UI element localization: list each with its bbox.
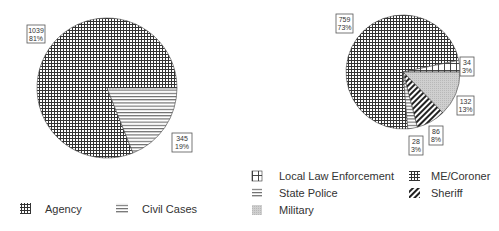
left-pie [37,18,177,158]
svg-text:345: 345 [176,135,188,142]
legend-item-state-police: State Police [252,187,338,199]
svg-text:86: 86 [432,128,440,135]
svg-text:Military: Military [279,204,314,216]
svg-text:Local Law Enforcement: Local Law Enforcement [279,170,394,182]
svg-text:1039: 1039 [28,27,44,34]
legend-item-agency: Agency [20,203,82,215]
diagonal-stripes-swatch-icon [409,188,420,198]
svg-text:3%: 3% [462,67,472,74]
legend-item-me-coroner: ME/Coroner [409,170,491,182]
left-pie-label-civil-cases: 345 19% [172,133,192,152]
horizontal-lines-swatch-icon [116,203,128,214]
legend-item-sheriff: Sheriff [409,187,464,199]
svg-text:13%: 13% [458,106,472,113]
right-pie-label-state-police: 28 3% [409,136,423,155]
right-pie-label-military: 132 13% [457,96,474,115]
right-pie [346,15,460,129]
svg-text:759: 759 [339,16,351,23]
svg-text:3%: 3% [411,146,421,153]
right-pie-label-sheriff: 86 8% [429,126,443,145]
svg-text:Agency: Agency [45,203,82,215]
left-pie-label-agency: 1039 81% [27,25,45,43]
legend-item-local-law-enforcement: Local Law Enforcement [252,170,394,182]
right-legend: Local Law Enforcement State Police Milit… [252,170,491,216]
svg-text:8%: 8% [431,136,441,143]
legend-item-military: Military [252,204,314,216]
dense-grid-swatch-icon [409,171,420,181]
svg-text:ME/Coroner: ME/Coroner [431,170,491,182]
svg-text:81%: 81% [29,35,43,42]
svg-text:73%: 73% [337,24,351,31]
svg-text:Sheriff: Sheriff [431,187,464,199]
gray-stipple-swatch-icon [252,205,262,215]
dense-grid-swatch-icon [20,203,31,214]
chart-canvas: 1039 81% 345 19% 759 73% 34 3% 132 13% 8… [0,0,499,231]
svg-text:State Police: State Police [279,187,338,199]
right-pie-label-local-law-enforcement: 34 3% [460,57,474,76]
right-pie-label-me-coroner: 759 73% [336,14,353,33]
left-legend: Agency Civil Cases [20,203,198,215]
svg-text:Civil Cases: Civil Cases [142,203,198,215]
svg-text:19%: 19% [175,143,189,150]
horizontal-lines-swatch-icon [252,188,262,198]
svg-text:132: 132 [460,98,472,105]
legend-item-civil-cases: Civil Cases [116,203,198,215]
vertical-cross-swatch-icon [252,171,262,181]
svg-text:28: 28 [412,138,420,145]
svg-text:34: 34 [463,59,471,66]
